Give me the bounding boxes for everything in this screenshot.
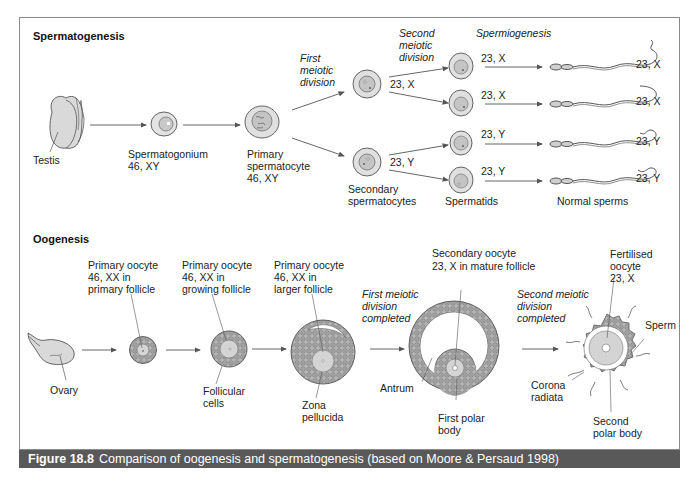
oogenesis-title: Oogenesis [33,233,89,245]
arrow [292,138,344,156]
spermatogonium-label: Spermatogonium [128,148,208,160]
secondary-spermatocyte-x-cell [353,70,381,98]
figure-number: Figure 18.8 [28,452,94,466]
primary-spermatocyte-karyotype: 46, XY [247,172,279,184]
fertilised-oocyte-label-1: Fertilised [610,248,653,260]
ovary-label: Ovary [50,384,79,396]
sperm-1-label: 23, X [636,58,661,70]
spermatid-1-label: 23, X [481,52,506,64]
figure-caption: Figure 18.8Comparison of oogenesis and s… [19,450,680,468]
sperm-label: Sperm [645,319,676,331]
growing-follicle-label-2: 46, XX in [182,271,225,283]
zona-pellucida-label-1: Zona [302,399,326,411]
primary-follicle [130,337,157,364]
first-meiotic-division-label-3: division [300,76,335,88]
secondary-oocyte-label-2: 23, X in mature follicle [432,260,535,272]
secondary-spermatocytes-label-2: spermatocytes [348,195,416,207]
corona-radiata-label-1: Corona [531,379,566,391]
second-meiotic-completed-label-1: Second meiotic [517,288,590,300]
arrow [389,68,448,77]
secondary-spermatocyte-y-label: 23, Y [390,156,414,168]
leader-line [610,370,611,412]
spermatogonium-cell [151,112,177,136]
follicular-cells-label-1: Follicular [203,385,246,397]
second-meiotic-completed-label-3: completed [517,312,567,324]
arrow [389,92,448,103]
secondary-spermatocyte-x-label: 23, X [390,78,415,90]
second-meiotic-division-label-3: division [399,51,434,63]
primary-spermatocyte-cell [245,106,279,138]
testis-label: Testis [33,154,60,166]
primary-spermatocyte-label-2: spermatocyte [247,160,310,172]
primary-spermatocyte-label-1: Primary [247,148,284,160]
spermatid-cells [449,53,473,193]
larger-follicle-label-3: larger follicle [274,283,333,295]
second-polar-body-label-2: polar body [593,427,643,439]
leader-line [212,294,226,340]
first-meiotic-division-label-1: First [300,52,321,64]
first-polar-body-label-2: body [438,424,462,436]
first-polar-body-label-1: First polar [438,412,485,424]
testis-illustration [50,96,84,152]
diagram-canvas: Spermatogenesis Testis Spermatogonium 46… [0,0,696,487]
first-meiotic-completed-label-3: completed [362,312,412,324]
ovary-illustration [28,333,74,380]
sperm-3-label: 23, Y [636,135,660,147]
first-meiotic-division-label-2: meiotic [300,64,334,76]
growing-follicle-label-1: Primary oocyte [182,259,252,271]
second-meiotic-division-label-2: meiotic [399,39,433,51]
larger-follicle-label-1: Primary oocyte [274,259,344,271]
spermatids-label: Spermatids [445,195,498,207]
secondary-spermatocyte-y-cell [353,148,381,176]
fertilised-oocyte [566,306,650,396]
second-meiotic-completed-label-2: division [517,300,552,312]
first-meiotic-completed-label-1: First meiotic [362,288,419,300]
second-polar-body-label-1: Second [593,415,629,427]
larger-follicle-label-2: 46, XX in [274,271,317,283]
corona-radiata-label-2: radiata [531,391,563,403]
primary-follicle-label-2: 46, XX in [88,271,131,283]
spermiogenesis-label: Spermiogenesis [476,27,552,39]
arrow [292,92,344,110]
fertilised-oocyte-label-3: 23, X [610,272,635,284]
primary-follicle-label-1: Primary oocyte [88,259,158,271]
sperm-2-label: 23, X [636,95,661,107]
growing-follicle [211,331,247,367]
spermatogonium-karyotype: 46, XY [128,160,160,172]
follicular-cells-label-2: cells [203,397,224,409]
secondary-spermatocytes-label-1: Secondary [348,183,399,195]
normal-sperms-label: Normal sperms [557,195,628,207]
growing-follicle-label-3: growing follicle [182,283,251,295]
spermatogenesis-title: Spermatogenesis [33,30,125,42]
zona-pellucida-label-2: pellucida [302,411,344,423]
secondary-oocyte-label-1: Secondary oocyte [432,247,516,259]
mature-follicle [409,301,499,396]
sperm-4-label: 23, Y [636,172,660,184]
fertilised-oocyte-label-2: oocyte [610,260,641,272]
leader-line [216,366,222,384]
first-meiotic-completed-label-2: division [362,300,397,312]
arrow [389,170,448,180]
primary-follicle-label-3: primary follicle [88,283,155,295]
spermatid-2-label: 23, X [481,89,506,101]
antrum-label: Antrum [380,382,414,394]
arrow [389,145,448,155]
spermatid-4-label: 23, Y [481,165,505,177]
figure-caption-text: Comparison of oogenesis and spermatogene… [99,452,559,466]
second-meiotic-division-label-1: Second [399,27,436,39]
spermatid-3-label: 23, Y [481,128,505,140]
